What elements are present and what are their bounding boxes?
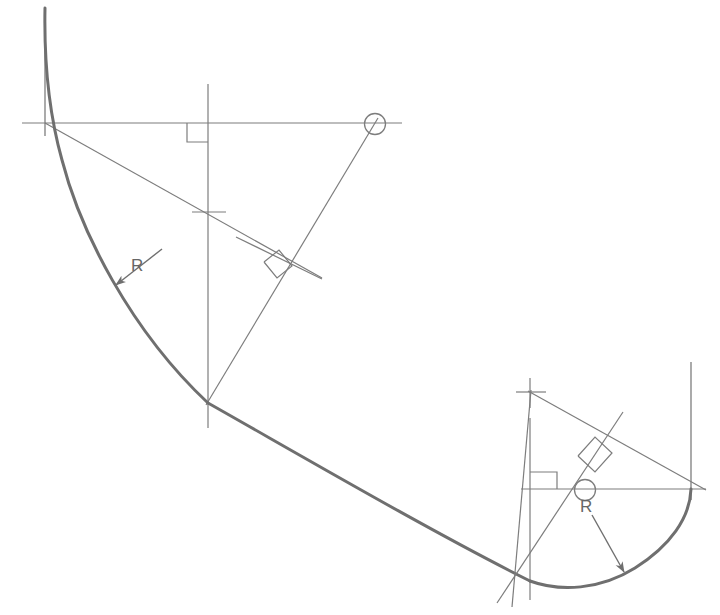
right-construction-group: R bbox=[497, 362, 706, 607]
radius-label-right: R bbox=[580, 497, 592, 516]
radius-construction-line-right-diagonal bbox=[497, 412, 623, 603]
radius-construction-line-left-lower bbox=[206, 118, 378, 405]
left-construction-group: R bbox=[22, 8, 402, 428]
technical-drawing-canvas: R bbox=[0, 0, 720, 615]
radius-construction-line-left-upper bbox=[45, 123, 322, 278]
radius-label-left: R bbox=[131, 256, 143, 275]
radius-leader-line-right bbox=[592, 515, 624, 572]
radius-construction-line-right-upper bbox=[528, 391, 706, 490]
main-arc-right bbox=[530, 489, 691, 588]
right-angle-icon-middle bbox=[264, 250, 292, 278]
radius-construction-line-right-lower bbox=[512, 390, 531, 607]
right-angle-icon-lower-left bbox=[530, 472, 557, 489]
tangent-segment-group bbox=[208, 403, 530, 581]
right-angle-icon-top bbox=[187, 123, 208, 142]
main-tangent-segment bbox=[208, 403, 530, 581]
main-arc-left bbox=[45, 8, 208, 403]
perpendicular-crossing-line-middle bbox=[236, 237, 322, 279]
drawing-svg-root: R bbox=[0, 0, 720, 615]
